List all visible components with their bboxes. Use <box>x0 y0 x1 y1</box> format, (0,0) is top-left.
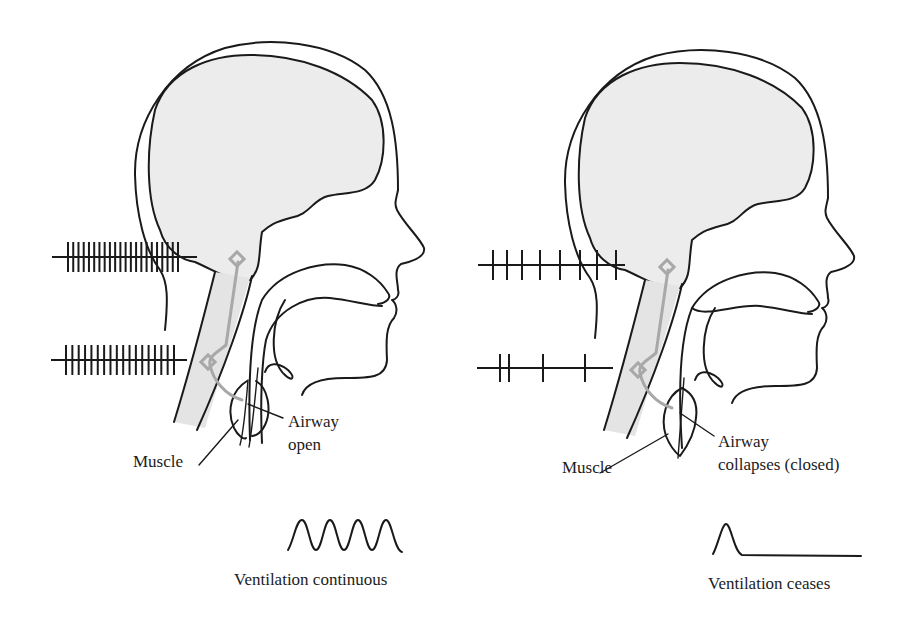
left-spike-train-lower <box>51 345 187 375</box>
right-spinal-cord <box>604 280 680 436</box>
right-ventilation-waveform <box>713 524 861 556</box>
right-palate-lower <box>692 306 812 314</box>
right-ventilation-caption: Ventilation ceases <box>708 574 830 594</box>
diagram-canvas <box>0 0 918 639</box>
right-spike-train-lower <box>477 354 613 382</box>
left-ventilation-caption: Ventilation continuous <box>234 570 387 590</box>
left-brain <box>149 55 384 280</box>
left-muscle-label: Muscle <box>133 452 183 472</box>
right-airway-label-line1: Airway <box>718 432 769 452</box>
left-spinal-cord <box>174 272 250 428</box>
right-face-profile <box>732 198 854 403</box>
right-brain <box>579 63 814 288</box>
left-airway-wall-back <box>240 380 248 445</box>
right-head-diagram <box>565 50 854 473</box>
right-palate-upper <box>680 272 819 448</box>
left-ventilation-waveform <box>288 520 402 552</box>
right-tongue <box>695 308 722 387</box>
right-airway-label-line2: collapses (closed) <box>718 455 839 475</box>
left-airway-label-line2: open <box>288 435 321 455</box>
right-muscle-label: Muscle <box>562 458 612 478</box>
left-face-profile <box>302 190 424 395</box>
left-airway-label-line1: Airway <box>288 412 339 432</box>
left-tongue <box>265 300 292 379</box>
